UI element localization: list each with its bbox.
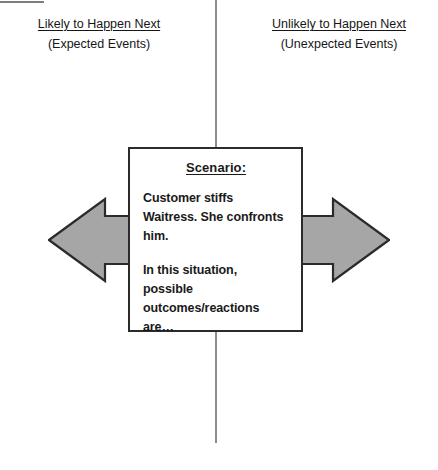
scenario-paragraph-2: In this situation, possible outcomes/rea… — [143, 261, 289, 337]
top-rule-divider — [0, 1, 44, 3]
arrow-right-icon — [298, 197, 390, 283]
arrow-left-icon — [48, 197, 140, 283]
diagram-canvas: Likely to Happen Next (Expected Events) … — [0, 0, 438, 470]
column-subtitle-likely: (Expected Events) — [4, 34, 194, 54]
scenario-heading-text: Scenario: — [186, 160, 246, 175]
column-subtitle-unlikely: (Unexpected Events) — [244, 34, 434, 54]
scenario-heading: Scenario: — [143, 160, 289, 175]
scenario-box: Scenario: Customer stiffs Waitress. She … — [128, 147, 303, 332]
column-heading-likely: Likely to Happen Next (Expected Events) — [4, 14, 194, 54]
column-title-unlikely: Unlikely to Happen Next — [272, 14, 406, 34]
column-title-likely: Likely to Happen Next — [38, 14, 160, 34]
column-heading-unlikely: Unlikely to Happen Next (Unexpected Even… — [244, 14, 434, 54]
scenario-paragraph-1: Customer stiffs Waitress. She confronts … — [143, 189, 289, 246]
